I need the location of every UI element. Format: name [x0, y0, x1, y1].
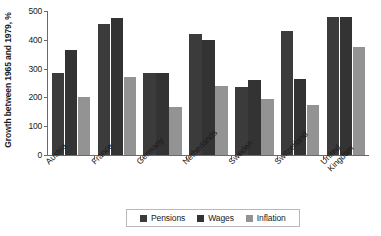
legend-label: Inflation [257, 213, 286, 223]
y-axis-tick-label: 400 [18, 35, 42, 45]
bar-chart: Growth between 1965 and 1979, % 50040030… [0, 0, 381, 236]
bar-inflation-france [124, 77, 137, 155]
y-axis-tick-label: 500 [18, 6, 42, 16]
y-axis-tick-label: 0 [18, 150, 42, 160]
bar-pensions-netherlands [189, 34, 202, 155]
bar-pensions-united-kingdom [327, 17, 340, 155]
bar-group [235, 11, 274, 155]
y-axis-title: Growth between 1965 and 1979, % [0, 0, 16, 160]
bar-wages-united-kingdom [340, 17, 353, 155]
x-axis-category-labels: AustriaFranceGermanyNetherlandsSwedenSwi… [18, 160, 370, 204]
bar-pensions-france [98, 24, 111, 155]
bar-inflation-austria [78, 97, 91, 155]
chart-legend: PensionsWagesInflation [126, 209, 300, 227]
legend-swatch-icon [197, 215, 204, 222]
legend-swatch-icon [140, 215, 147, 222]
bar-inflation-switzerland [307, 105, 320, 155]
bar-wages-austria [65, 50, 78, 155]
y-axis-tick-label: 300 [18, 64, 42, 74]
bar-group [143, 11, 182, 155]
bar-inflation-united-kingdom [353, 47, 366, 155]
bar-inflation-germany [169, 107, 182, 155]
legend-label: Wages [208, 213, 234, 223]
legend-label: Pensions [151, 213, 185, 223]
bar-inflation-netherlands [215, 86, 228, 155]
legend-item-pensions[interactable]: Pensions [140, 213, 185, 223]
legend-item-inflation[interactable]: Inflation [246, 213, 286, 223]
bar-group [52, 11, 91, 155]
y-axis-title-text: Growth between 1965 and 1979, % [3, 12, 13, 147]
legend-swatch-icon [246, 215, 253, 222]
bar-wages-france [111, 18, 124, 155]
y-axis-tick-labels: 5004003002001000 [18, 6, 42, 160]
bar-pensions-switzerland [281, 31, 294, 155]
plot-area: 5004003002001000 [18, 6, 370, 160]
y-axis-tick-label: 200 [18, 92, 42, 102]
bar-inflation-sweden [261, 99, 274, 155]
y-axis-tick-label: 100 [18, 121, 42, 131]
legend-item-wages[interactable]: Wages [197, 213, 234, 223]
bar-group [327, 11, 366, 155]
bar-group [98, 11, 137, 155]
